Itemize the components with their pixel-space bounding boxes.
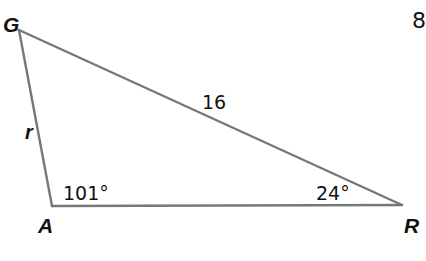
- vertex-label-G: G: [3, 14, 19, 35]
- side-GA: [19, 30, 52, 206]
- angle-label-R: 24°: [316, 184, 350, 203]
- problem-number: 8: [412, 10, 426, 32]
- angle-label-A: 101°: [63, 184, 109, 203]
- vertex-label-A: A: [38, 215, 53, 236]
- side-GR: [19, 30, 402, 205]
- side-AR: [52, 205, 402, 206]
- vertex-label-R: R: [404, 215, 419, 236]
- side-variable-r: r: [25, 122, 33, 142]
- side-length-GR: 16: [202, 93, 226, 112]
